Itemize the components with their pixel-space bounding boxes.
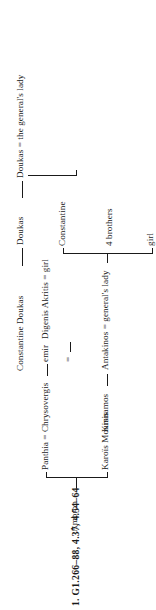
edge-kinnamos-antakinos [107, 374, 108, 386]
node-panthia: Panthia = Chrysovergis [41, 383, 50, 471]
edge-doukas-doukaslady [22, 181, 23, 198]
node-constantine: Constantine [58, 201, 67, 246]
bracket-doukaslady-digenis [28, 170, 77, 176]
edge-constantine-doukas-doukas [22, 248, 23, 266]
node-doukas: Doukas [16, 217, 25, 245]
node-doukas-general-lady: Doukas = the general's lady [16, 75, 25, 178]
node-ambron: Ambron [70, 501, 79, 532]
edge-panthia-emir [47, 364, 48, 376]
edge-antakinos-stem [107, 254, 108, 263]
bracket-ambron-children [46, 472, 108, 478]
node-constantine-doukas: Constantine Doukas [16, 296, 25, 371]
edge-ambron-stem [76, 478, 77, 488]
node-emir: emir [41, 345, 50, 362]
stemma-figure: 1. G1.266–88, 4.37, 4.54–64 Ambron Karoï… [0, 0, 155, 610]
edge-emir-digenis [70, 342, 71, 352]
node-girl: girl [146, 233, 155, 246]
node-digenis-akritis: Digenis Akritis = girl [41, 259, 50, 339]
node-four-brothers: 4 brothers [105, 208, 114, 246]
node-antakinos: Antakinos = general's lady [101, 270, 110, 370]
node-emir-marriage: = [64, 357, 73, 362]
node-kinnamos: Kinnamos [101, 394, 110, 432]
bracket-antakinos-children [63, 248, 153, 254]
